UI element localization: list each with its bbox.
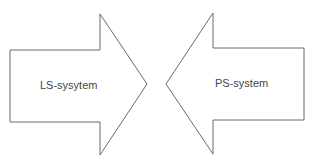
arrow-ps-system: PS-system <box>166 13 304 154</box>
arrow-ls-system-label: LS-sysytem <box>40 79 97 91</box>
arrow-ls-system: LS-sysytem <box>10 14 147 155</box>
arrow-ps-system-label: PS-system <box>215 77 268 89</box>
diagram-canvas: LS-sysytem PS-system <box>0 0 312 167</box>
